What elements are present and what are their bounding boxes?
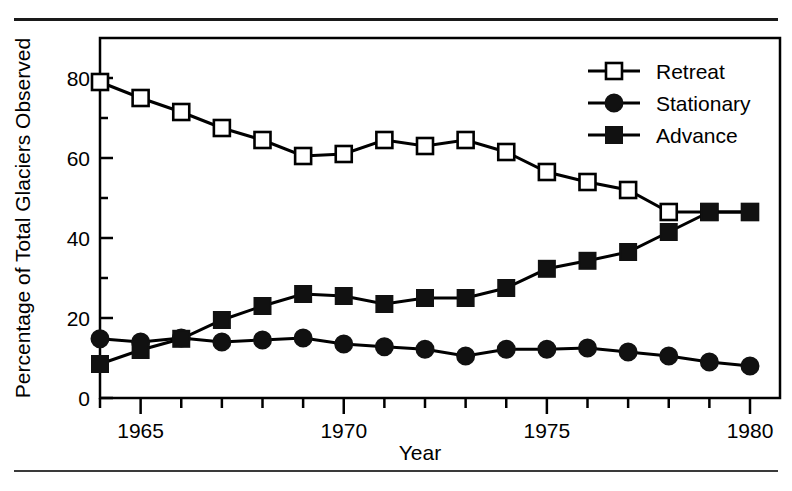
legend-item-advance[interactable]: Advance [588,124,738,147]
data-point-marker [133,90,149,106]
data-point-marker [295,148,311,164]
data-point-marker [620,344,637,361]
data-point-marker [539,164,555,180]
data-point-marker [376,132,392,148]
data-point-marker [660,348,677,365]
data-point-marker [620,244,636,260]
data-point-marker [606,95,623,112]
data-point-marker [295,286,311,302]
y-tick-label: 40 [67,227,90,250]
data-point-marker [173,104,189,120]
legend-label: Retreat [656,60,725,83]
data-point-marker [255,298,271,314]
x-tick-label: 1970 [320,419,367,442]
data-point-marker [336,288,352,304]
x-tick-label: 1980 [727,419,774,442]
data-point-marker [606,127,622,143]
data-point-marker [579,340,596,357]
y-tick-label: 60 [67,147,90,170]
x-axis: 1965197019751980 [100,398,773,442]
data-point-marker [580,174,596,190]
legend-label: Stationary [656,92,751,115]
data-point-marker [295,330,312,347]
data-point-marker [335,336,352,353]
data-point-marker [580,253,596,269]
data-point-marker [92,356,108,372]
data-point-marker [701,204,717,220]
data-point-marker [92,74,108,90]
data-point-marker [661,224,677,240]
data-point-marker [742,204,758,220]
legend-label: Advance [656,124,738,147]
data-point-marker [606,63,622,79]
data-point-marker [213,334,230,351]
series-stationary [92,330,759,375]
y-tick-label: 20 [67,307,90,330]
legend-item-retreat[interactable]: Retreat [588,60,725,83]
data-point-marker [417,341,434,358]
data-point-marker [458,290,474,306]
y-axis-title: Percentage of Total Glaciers Observed [11,38,34,398]
y-tick-label: 0 [78,387,90,410]
data-point-marker [92,330,109,347]
data-point-marker [538,341,555,358]
data-point-marker [173,331,189,347]
data-point-marker [133,342,149,358]
data-point-marker [254,332,271,349]
data-point-marker [214,120,230,136]
data-point-marker [661,204,677,220]
y-tick-label: 80 [67,67,90,90]
data-point-marker [539,261,555,277]
data-point-marker [255,132,271,148]
x-tick-label: 1965 [117,419,164,442]
legend-item-stationary[interactable]: Stationary [588,92,751,115]
data-point-marker [417,138,433,154]
data-point-marker [620,182,636,198]
x-axis-title: Year [399,441,441,464]
line-chart: 0204060801965197019751980YearPercentage … [0,0,792,491]
data-point-marker [417,290,433,306]
data-point-marker [458,132,474,148]
data-point-marker [742,358,759,375]
data-point-marker [457,348,474,365]
x-tick-label: 1975 [524,419,571,442]
data-point-marker [376,338,393,355]
data-point-marker [498,144,514,160]
data-point-marker [376,296,392,312]
data-point-marker [498,280,514,296]
data-point-marker [498,341,515,358]
data-point-marker [214,312,230,328]
bottom-horizontal-rule [14,470,778,472]
chart-legend: RetreatStationaryAdvance [588,60,751,147]
data-point-marker [701,354,718,371]
data-point-marker [336,146,352,162]
figure-container: 0204060801965197019751980YearPercentage … [0,0,792,491]
